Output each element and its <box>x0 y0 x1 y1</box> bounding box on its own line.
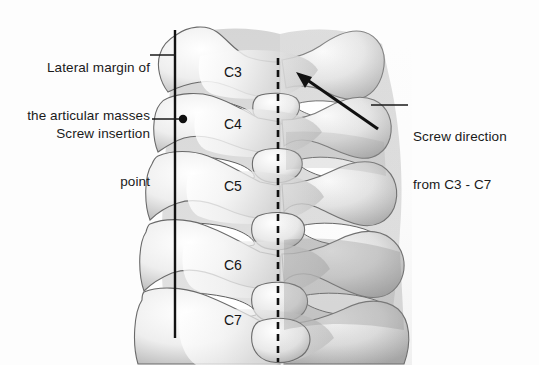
bone-shading-overlay <box>280 30 412 365</box>
vertebra-label-c3: C3 <box>224 65 242 79</box>
screw-insertion-label-line1: Screw insertion <box>22 126 150 142</box>
vertebra-label-c7: C7 <box>224 313 242 327</box>
screw-insertion-label-line2: point <box>22 174 150 190</box>
screw-direction-label: Screw direction from C3 - C7 <box>413 97 537 225</box>
screw-direction-label-line1: Screw direction <box>413 129 537 145</box>
screw-direction-label-line2: from C3 - C7 <box>413 177 537 193</box>
figure-canvas: Lateral margin of the articular masses S… <box>0 0 539 365</box>
screw-insertion-label: Screw insertion point <box>22 94 150 222</box>
vertebra-label-c4: C4 <box>224 117 242 131</box>
vertebra-label-c5: C5 <box>224 179 242 193</box>
screw-insertion-point-dot <box>179 115 187 123</box>
lateral-margin-label-line1: Lateral margin of <box>10 60 150 76</box>
vertebra-label-c6: C6 <box>224 258 242 272</box>
